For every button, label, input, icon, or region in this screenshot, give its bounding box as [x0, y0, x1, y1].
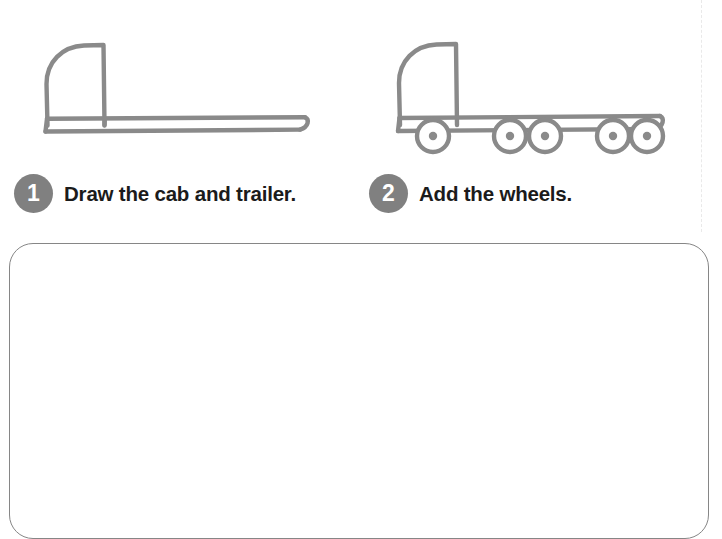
step-1-illustration — [0, 26, 361, 156]
step-2-number-badge: 2 — [369, 174, 408, 213]
steps-row: 1 Draw the cab and trailer. — [0, 0, 722, 226]
step-2-caption: 2 Add the wheels. — [369, 174, 572, 213]
truck-with-wheels-icon — [355, 26, 716, 156]
step-1: 1 Draw the cab and trailer. — [0, 0, 361, 226]
step-1-number-badge: 1 — [14, 174, 53, 213]
truck-cab-trailer-icon — [0, 26, 361, 156]
step-1-caption: 1 Draw the cab and trailer. — [14, 174, 296, 213]
step-2: 2 Add the wheels. — [355, 0, 716, 226]
drawing-area-box[interactable] — [9, 243, 709, 539]
wheel-group — [417, 120, 663, 152]
step-1-caption-text: Draw the cab and trailer. — [64, 182, 296, 206]
step-2-caption-text: Add the wheels. — [419, 182, 572, 206]
step-2-illustration — [355, 26, 716, 156]
